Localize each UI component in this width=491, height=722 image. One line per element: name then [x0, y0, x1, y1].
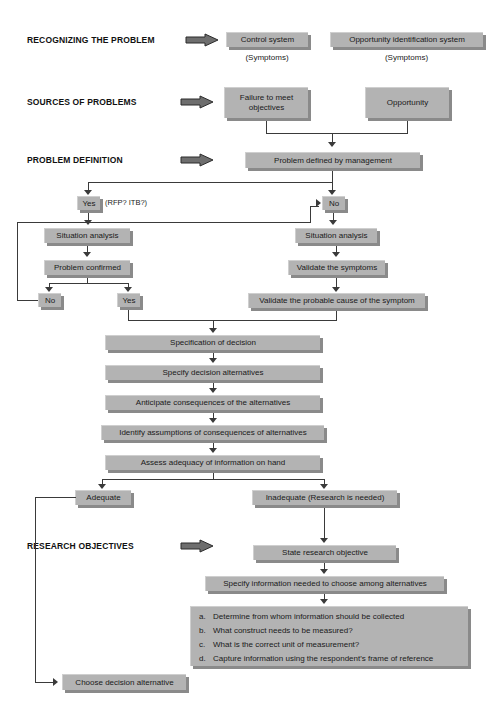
connector-adequate-bottom	[35, 682, 55, 683]
arrow-down-right-situation-analysis	[329, 220, 337, 225]
list-item: a. Determine from whom information shoul…	[199, 612, 462, 622]
connector-inadequate-down	[324, 508, 325, 540]
arrow-down-to-specify-alternatives	[209, 358, 217, 363]
arrow-down-to-problem-defined	[328, 142, 336, 147]
node-problem-confirmed[interactable]: Problem confirmed	[44, 260, 130, 275]
node-specify-information-needed[interactable]: Specify information needed to choose amo…	[205, 576, 444, 591]
stage-label-research-objectives: RESEARCH OBJECTIVES	[27, 541, 134, 551]
node-decision-yes[interactable]: Yes	[77, 196, 100, 210]
arrow-down-to-problem-confirmed	[83, 252, 91, 257]
connector-feedback-horizontal	[95, 222, 310, 223]
stage-label-sources-of-problems: SOURCES OF PROBLEMS	[27, 97, 137, 107]
arrow-down-to-specification	[209, 328, 217, 333]
list-item-letter: c.	[199, 640, 213, 650]
arrow-down-to-state-objective	[320, 538, 328, 543]
block-arrow-icon-objectives	[180, 539, 214, 553]
node-control-system[interactable]: Control system	[226, 32, 308, 47]
connector-left-return-bottom	[17, 300, 38, 301]
node-choose-decision-alternative[interactable]: Choose decision alternative	[62, 674, 186, 690]
list-item-text: What is the correct unit of measurement?	[213, 640, 462, 650]
note-rfp-itb: (RFP? ITB?)	[105, 198, 147, 207]
arrow-right-to-no	[316, 199, 321, 207]
arrow-right-to-choose-decision	[53, 678, 58, 686]
arrow-down-to-inadequate	[320, 484, 328, 489]
node-identify-assumptions[interactable]: Identify assumptions of consequences of …	[101, 425, 324, 440]
arrow-down-to-confirm-yes	[124, 287, 132, 292]
node-confirm-yes[interactable]: Yes	[117, 293, 140, 307]
block-arrow-icon-recognizing	[185, 33, 219, 47]
arrow-down-to-yes	[84, 190, 92, 195]
stage-label-recognizing-the-problem: RECOGNIZING THE PROBLEM	[27, 35, 155, 45]
list-item-text: Capture information using the respondent…	[213, 654, 462, 664]
flowchart-canvas: RECOGNIZING THE PROBLEM SOURCES OF PROBL…	[0, 0, 491, 722]
arrow-down-to-adequate	[98, 484, 106, 489]
node-assess-adequacy[interactable]: Assess adequacy of information on hand	[105, 455, 320, 470]
block-arrow-icon-sources	[180, 95, 214, 109]
node-anticipate-consequences[interactable]: Anticipate consequences of the alternati…	[105, 395, 320, 410]
connector-confirm-yes-down	[128, 310, 129, 320]
caption-control-system: (Symptoms)	[226, 53, 308, 62]
connector-pre-spec-merge	[128, 320, 337, 321]
list-item-text: What construct needs to be measured?	[213, 626, 462, 636]
stage-label-problem-definition: PROBLEM DEFINITION	[27, 155, 123, 165]
node-situation-analysis-right[interactable]: Situation analysis	[295, 228, 377, 243]
arrow-down-to-validate-cause	[332, 287, 340, 292]
connector-adequate-rail	[35, 497, 36, 682]
connector-defined-split	[88, 182, 333, 183]
node-validate-the-symptoms[interactable]: Validate the symptoms	[288, 260, 385, 275]
connector-confirmed-split	[49, 283, 128, 284]
node-opportunity[interactable]: Opportunity	[365, 87, 449, 118]
connector-merge-horizontal	[266, 133, 408, 134]
list-item: b. What construct needs to be measured?	[199, 626, 462, 636]
connector-feedback-riser	[310, 206, 311, 223]
connector-failure-down	[266, 121, 267, 133]
list-item-text: Determine from whom information should b…	[213, 612, 462, 622]
arrow-down-to-specify-information	[320, 569, 328, 574]
connector-left-return-top	[17, 222, 95, 223]
arrow-down-to-information-list	[320, 599, 328, 604]
arrow-down-to-assess-adequacy	[209, 448, 217, 453]
connector-validate-cause-down	[336, 311, 337, 320]
list-item-letter: d.	[199, 654, 213, 664]
node-specification-of-decision[interactable]: Specification of decision	[105, 335, 320, 350]
node-inadequate[interactable]: Inadequate (Research is needed)	[252, 490, 397, 505]
list-item: c. What is the correct unit of measureme…	[199, 640, 462, 650]
node-information-requirements-list[interactable]: a. Determine from whom information shoul…	[190, 606, 468, 666]
node-problem-defined-by-management[interactable]: Problem defined by management	[245, 152, 420, 168]
node-opportunity-identification-system[interactable]: Opportunity identification system	[330, 32, 483, 47]
caption-opportunity-identification-system: (Symptoms)	[330, 53, 483, 62]
connector-left-return-rail	[17, 222, 18, 300]
list-item-letter: a.	[199, 612, 213, 622]
connector-opportunity-down	[407, 121, 408, 133]
connector-assess-split	[102, 479, 324, 480]
node-validate-probable-cause[interactable]: Validate the probable cause of the sympt…	[248, 293, 425, 308]
arrow-down-to-no	[328, 190, 336, 195]
arrow-down-to-anticipate	[209, 388, 217, 393]
list-item-letter: b.	[199, 626, 213, 636]
block-arrow-icon-definition	[180, 153, 214, 167]
connector-adequate-left	[35, 497, 76, 498]
arrow-down-to-validate-symptoms	[332, 252, 340, 257]
list-item: d. Capture information using the respond…	[199, 654, 462, 664]
arrow-down-to-confirm-no	[45, 287, 53, 292]
node-state-research-objective[interactable]: State research objective	[253, 545, 396, 560]
arrow-down-to-identify-assumptions	[209, 418, 217, 423]
node-situation-analysis-left[interactable]: Situation analysis	[44, 228, 130, 243]
node-failure-to-meet-objectives[interactable]: Failure to meet objectives	[224, 87, 308, 118]
node-decision-no[interactable]: No	[322, 196, 345, 210]
node-adequate[interactable]: Adequate	[75, 490, 131, 505]
node-confirm-no[interactable]: No	[38, 293, 61, 307]
node-specify-decision-alternatives[interactable]: Specify decision alternatives	[105, 365, 320, 380]
connector-defined-down	[332, 171, 333, 182]
